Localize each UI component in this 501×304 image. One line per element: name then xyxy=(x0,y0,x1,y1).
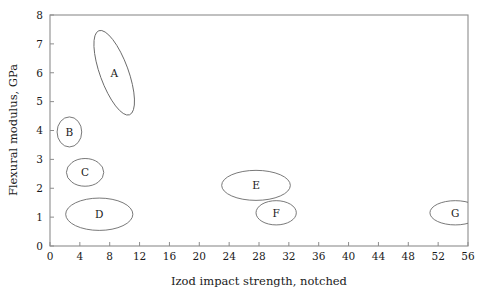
y-tick-label: 3 xyxy=(36,153,43,165)
region-label-c: C xyxy=(81,166,89,178)
scatter-plot-svg: ABCDEFG 048121620242832364044485256 0123… xyxy=(0,0,501,304)
x-tick-label: 36 xyxy=(312,250,326,262)
x-tick-label: 28 xyxy=(252,250,265,262)
region-label-f: F xyxy=(273,207,280,219)
y-axis-ticks xyxy=(50,15,54,246)
x-tick-label: 16 xyxy=(163,250,177,262)
x-tick-label: 40 xyxy=(342,250,355,262)
x-tick-label: 56 xyxy=(461,250,475,262)
x-axis-title: Izod impact strength, notched xyxy=(171,274,348,288)
y-tick-label: 2 xyxy=(36,182,43,194)
y-tick-label: 7 xyxy=(36,38,43,50)
x-tick-label: 12 xyxy=(133,250,146,262)
region-label-a: A xyxy=(109,67,118,79)
x-tick-label: 20 xyxy=(193,250,206,262)
region-label-d: D xyxy=(95,208,103,220)
region-label-e: E xyxy=(252,179,260,191)
y-tick-label: 4 xyxy=(36,124,43,136)
y-axis-title: Flexural modulus, GPa xyxy=(6,64,20,196)
x-tick-label: 24 xyxy=(222,250,236,262)
chart-figure: ABCDEFG 048121620242832364044485256 0123… xyxy=(0,0,501,304)
x-tick-label: 32 xyxy=(282,250,295,262)
x-tick-label: 4 xyxy=(77,250,84,262)
x-tick-label: 0 xyxy=(47,250,54,262)
x-axis-ticks xyxy=(50,242,468,246)
x-tick-label: 8 xyxy=(106,250,113,262)
y-tick-label: 8 xyxy=(36,9,43,21)
x-tick-label: 44 xyxy=(372,250,386,262)
x-tick-label: 52 xyxy=(431,250,444,262)
y-tick-label: 6 xyxy=(36,67,43,79)
y-axis-tick-labels: 012345678 xyxy=(36,9,43,252)
y-tick-label: 0 xyxy=(36,240,43,252)
y-tick-label: 5 xyxy=(36,95,43,107)
region-label-g: G xyxy=(451,207,459,219)
plot-frame xyxy=(50,15,468,246)
y-tick-label: 1 xyxy=(36,211,43,223)
region-ellipses xyxy=(57,26,481,231)
region-labels: ABCDEFG xyxy=(66,67,460,220)
region-label-b: B xyxy=(66,126,74,138)
x-axis-tick-labels: 048121620242832364044485256 xyxy=(47,250,475,262)
x-tick-label: 48 xyxy=(402,250,415,262)
